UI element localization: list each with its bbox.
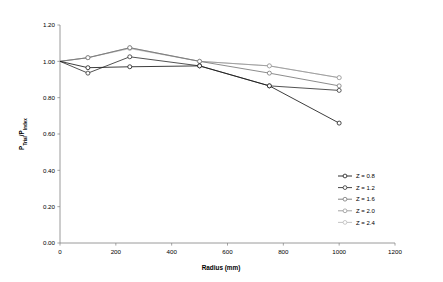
x-tick-label: 1200 [388, 248, 402, 255]
y-tick-label: 0.20 [43, 203, 56, 210]
x-tick-label: 1000 [332, 248, 346, 255]
data-point-marker [198, 59, 202, 63]
chart-background [0, 0, 443, 282]
x-tick-label: 800 [278, 248, 289, 255]
legend-marker-icon [343, 221, 347, 225]
legend-item-label: Z = 1.2 [356, 185, 376, 191]
x-tick-label: 400 [167, 248, 178, 255]
data-point-marker [337, 76, 341, 80]
data-point-marker [128, 46, 132, 50]
data-point-marker [86, 56, 90, 60]
data-point-marker [86, 66, 90, 70]
x-axis-title: Radius (mm) [202, 264, 241, 272]
data-point-marker [128, 55, 132, 59]
legend-marker-icon [343, 174, 347, 178]
line-chart: 020040060080010001200 0.000.200.400.600.… [0, 0, 443, 282]
x-tick-label: 0 [58, 248, 62, 255]
chart-container: 020040060080010001200 0.000.200.400.600.… [0, 0, 443, 282]
data-point-marker [337, 121, 341, 125]
data-point-marker [267, 64, 271, 68]
legend-item-label: Z = 2.0 [356, 208, 376, 214]
legend-item-label: Z = 0.8 [356, 173, 376, 179]
y-title-sub2: Index [23, 118, 28, 130]
data-point-marker [337, 88, 341, 92]
legend-item-label: Z = 1.6 [356, 196, 376, 202]
y-tick-label: 0.00 [43, 239, 56, 246]
y-tick-label: 0.40 [43, 167, 56, 174]
data-point-marker [198, 64, 202, 68]
y-tick-label: 0.80 [43, 94, 56, 101]
x-tick-label: 200 [111, 248, 122, 255]
legend-marker-icon [343, 197, 347, 201]
y-title-sub1: Trial [23, 136, 28, 145]
legend-item-label: Z = 2.4 [356, 220, 376, 226]
data-point-marker [337, 84, 341, 88]
data-point-marker [128, 65, 132, 69]
data-point-marker [267, 84, 271, 88]
data-point-marker [267, 71, 271, 75]
y-tick-label: 1.20 [43, 21, 56, 28]
y-tick-label: 0.60 [43, 130, 56, 137]
y-tick-label: 1.00 [43, 58, 56, 65]
legend-marker-icon [343, 209, 347, 213]
legend-marker-icon [343, 186, 347, 190]
data-point-marker [86, 71, 90, 75]
x-tick-label: 600 [222, 248, 233, 255]
